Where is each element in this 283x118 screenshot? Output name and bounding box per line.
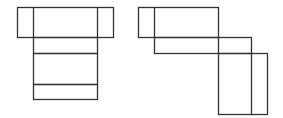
right-net-face-1 — [155, 38, 252, 54]
left-net-face-1 — [34, 38, 98, 54]
left-net-shape — [18, 8, 114, 100]
right-net-shape — [139, 8, 268, 115]
left-net-face-3 — [34, 85, 98, 100]
right-net-face-0 — [139, 8, 219, 38]
left-net-face-2 — [34, 54, 98, 85]
right-net-face-2 — [219, 54, 268, 115]
diagram-canvas — [0, 0, 283, 118]
left-net-face-0 — [18, 8, 114, 38]
